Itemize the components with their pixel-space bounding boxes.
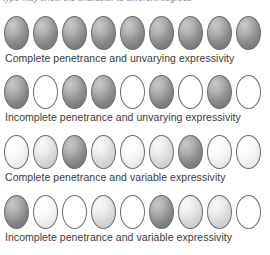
- oval: [33, 16, 58, 50]
- oval: [149, 75, 174, 109]
- oval: [4, 195, 29, 229]
- oval: [120, 75, 145, 109]
- oval: [91, 16, 116, 50]
- oval: [149, 135, 174, 169]
- diagram-panel-1: Complete penetrance and unvarying expres…: [0, 14, 270, 64]
- oval: [91, 195, 116, 229]
- oval: [120, 135, 145, 169]
- oval: [207, 75, 232, 109]
- oval: [178, 195, 203, 229]
- oval: [178, 75, 203, 109]
- oval: [149, 16, 174, 50]
- oval: [236, 195, 261, 229]
- oval: [4, 16, 29, 50]
- oval-row-3: [4, 133, 270, 171]
- oval: [4, 135, 29, 169]
- row-label-4: Incomplete penetrance and variable expre…: [5, 231, 270, 243]
- oval-row-4: [4, 193, 270, 231]
- oval: [120, 195, 145, 229]
- oval: [207, 16, 232, 50]
- row-label-3: Complete penetrance and variable express…: [5, 171, 270, 183]
- oval: [207, 135, 232, 169]
- row-label-2: Incomplete penetrance and unvarying expr…: [5, 111, 270, 123]
- top-caption-text: type may show the character to different…: [3, 0, 267, 3]
- oval-row-1: [4, 14, 270, 52]
- oval: [236, 135, 261, 169]
- oval: [33, 135, 58, 169]
- row-label-1: Complete penetrance and unvarying expres…: [5, 52, 270, 64]
- oval: [236, 16, 261, 50]
- diagram-panel-3: Complete penetrance and variable express…: [0, 133, 270, 183]
- oval-row-2: [4, 73, 270, 111]
- oval: [62, 16, 87, 50]
- penetrance-expressivity-diagram: type may show the character to different…: [0, 0, 270, 255]
- oval: [207, 195, 232, 229]
- oval: [62, 135, 87, 169]
- oval: [62, 75, 87, 109]
- oval: [120, 16, 145, 50]
- oval: [236, 75, 261, 109]
- oval: [4, 75, 29, 109]
- oval: [33, 75, 58, 109]
- oval: [91, 75, 116, 109]
- oval: [33, 195, 58, 229]
- oval: [62, 195, 87, 229]
- oval: [178, 16, 203, 50]
- oval: [91, 135, 116, 169]
- oval: [178, 135, 203, 169]
- diagram-panel-4: Incomplete penetrance and variable expre…: [0, 193, 270, 243]
- diagram-panel-2: Incomplete penetrance and unvarying expr…: [0, 73, 270, 123]
- oval: [149, 195, 174, 229]
